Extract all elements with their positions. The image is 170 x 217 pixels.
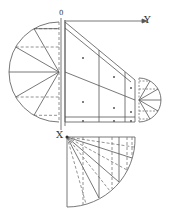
y-axis-label: Y: [144, 15, 151, 25]
trapezoid-inner-edge: [65, 28, 131, 82]
large-semicircle-radials: [9, 29, 59, 116]
x-axis-label: X: [56, 130, 63, 140]
trapezoid-points: [82, 57, 132, 122]
projection-diagram: [0, 0, 170, 217]
small-semicircle-radials: [139, 81, 161, 119]
development-radials: [67, 137, 132, 198]
origin-label: 0: [59, 10, 63, 17]
x-pivot-point: [66, 136, 69, 139]
development-dashed-verticals: [83, 137, 132, 205]
development-dashed-radials: [67, 137, 134, 204]
